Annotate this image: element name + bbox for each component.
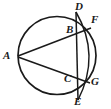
point-label-B: B: [66, 24, 73, 35]
chord-AF: [18, 28, 91, 56]
chord-AG: [18, 57, 90, 83]
point-label-D: D: [75, 1, 83, 12]
geometry-figure: A B C D E F G: [0, 0, 111, 109]
point-label-G: G: [91, 76, 99, 87]
point-label-F: F: [91, 14, 98, 25]
point-label-C: C: [64, 73, 71, 84]
point-label-E: E: [74, 96, 81, 107]
chord-DE: [76, 12, 78, 100]
point-label-A: A: [3, 50, 10, 61]
